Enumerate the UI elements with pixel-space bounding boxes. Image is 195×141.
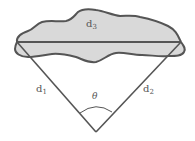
label-d1: d1: [36, 84, 47, 96]
label-theta: θ: [92, 92, 97, 101]
lake-region: [15, 9, 185, 62]
label-d2: d2: [143, 84, 154, 96]
angle-arc: [80, 107, 112, 113]
label-d3: d3: [86, 19, 97, 31]
triangle-lake-diagram: d3 d1 d2 θ: [0, 0, 195, 141]
diagram-canvas: [0, 0, 195, 141]
